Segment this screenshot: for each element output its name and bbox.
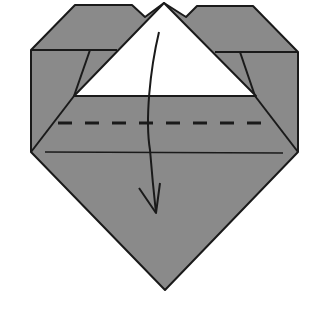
origami-diagram [0, 0, 310, 310]
horizontal-edge-line [45, 152, 283, 153]
heart-fold-illustration [0, 0, 310, 310]
